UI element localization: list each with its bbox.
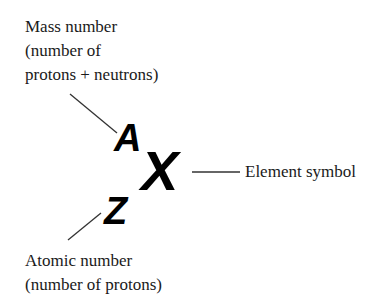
mass-number-symbol: A [114, 119, 141, 157]
atomic-label-line-2: (number of protons) [25, 273, 162, 297]
element-symbol: X [141, 143, 178, 199]
mass-number-label: Mass number (number of protons + neutron… [25, 15, 158, 87]
mass-label-line-1: Mass number [25, 15, 158, 39]
atomic-leader-line [68, 213, 101, 240]
element-symbol-label: Element symbol [245, 160, 356, 184]
atomic-label-line-1: Atomic number [25, 249, 162, 273]
atomic-number-symbol: Z [104, 192, 127, 230]
atomic-number-label: Atomic number (number of protons) [25, 249, 162, 297]
mass-label-line-2: (number of [25, 39, 158, 63]
mass-label-line-3: protons + neutrons) [25, 63, 158, 87]
mass-leader-line [70, 94, 117, 133]
